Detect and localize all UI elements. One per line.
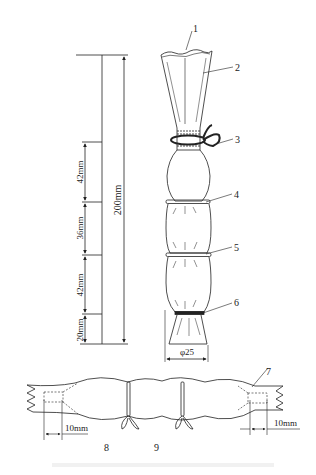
callout-7: 7 — [266, 366, 271, 377]
callout-4: 4 — [234, 189, 239, 200]
casing-funnel — [161, 51, 212, 128]
binding-ring-4 — [166, 200, 210, 204]
diameter-label: φ25 — [180, 347, 195, 357]
sausage-casing-diagram: 200mm 42mm 36mm 42mm 20mm — [0, 0, 316, 475]
casing-bottom-flare — [169, 315, 207, 344]
sausage-link-1 — [167, 150, 210, 201]
dimension-label-42mm-top: 42mm — [75, 160, 85, 183]
horizontal-casing-outline — [27, 378, 283, 420]
twine-tie-knot — [171, 125, 220, 146]
callout-9: 9 — [154, 442, 159, 453]
dimension-label-left-10mm: 10mm — [65, 423, 88, 433]
binding-ring-5 — [166, 253, 211, 257]
sausage-link-2 — [166, 204, 211, 253]
callout-3: 3 — [235, 134, 240, 145]
faded-figure-caption — [52, 463, 274, 467]
callouts-vertical: 1 2 3 4 5 6 — [186, 23, 240, 313]
callout-6: 6 — [234, 297, 239, 308]
callout-8: 8 — [104, 442, 109, 453]
callout-2: 2 — [235, 62, 240, 73]
dimension-label-right-10mm: 10mm — [274, 418, 297, 428]
dimension-label-36mm: 36mm — [75, 216, 85, 239]
dimension-label-42mm-bottom: 42mm — [75, 273, 85, 296]
callout-1: 1 — [193, 23, 198, 34]
horizontal-sausage: 7 10mm 10mm 8 9 — [27, 366, 300, 453]
vertical-sausage: φ25 — [161, 50, 220, 362]
twine-tie-8 — [122, 382, 139, 429]
dimension-label-200mm: 200mm — [112, 185, 123, 216]
callout-5: 5 — [234, 242, 239, 253]
sausage-link-3 — [166, 257, 211, 312]
twine-tie-9 — [176, 382, 193, 429]
dimension-system-vertical: 200mm 42mm 36mm 42mm 20mm — [75, 55, 128, 344]
binding-tie-6 — [175, 312, 204, 315]
dimension-label-20mm: 20mm — [75, 318, 85, 341]
